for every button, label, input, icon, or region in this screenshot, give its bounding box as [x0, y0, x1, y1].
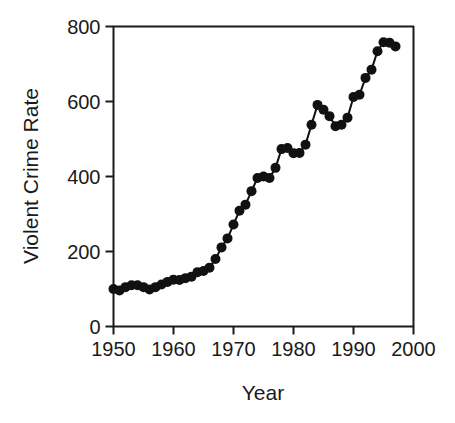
x-axis-title: Year: [242, 381, 284, 404]
y-axis-ticks: 0200400600800: [67, 16, 113, 338]
x-tick-label: 1950: [91, 338, 136, 360]
line-chart: 0200400600800 195019601970198019902000 Y…: [0, 0, 455, 423]
x-tick-label: 2000: [391, 338, 436, 360]
data-point: [271, 163, 281, 173]
data-point: [355, 90, 365, 100]
y-tick-label: 0: [89, 316, 100, 338]
data-point: [241, 200, 251, 210]
data-point: [229, 220, 239, 230]
data-point: [301, 140, 311, 150]
data-point: [211, 254, 221, 264]
chart-figure: 0200400600800 195019601970198019902000 Y…: [0, 0, 455, 423]
data-point: [205, 263, 215, 273]
y-tick-label: 200: [67, 241, 100, 263]
y-tick-label: 800: [67, 16, 100, 38]
data-point: [325, 111, 335, 121]
data-point: [223, 233, 233, 243]
x-tick-label: 1960: [151, 338, 196, 360]
x-tick-label: 1970: [211, 338, 256, 360]
x-tick-label: 1990: [331, 338, 376, 360]
data-point: [217, 242, 227, 252]
data-point: [367, 65, 377, 75]
series-line: [114, 42, 396, 290]
y-tick-label: 600: [67, 91, 100, 113]
data-point: [265, 173, 275, 183]
data-series-group: [109, 37, 401, 295]
data-point: [343, 113, 353, 123]
y-tick-label: 400: [67, 166, 100, 188]
x-tick-label: 1980: [271, 338, 316, 360]
data-point: [373, 46, 383, 56]
y-axis-title: Violent Crime Rate: [19, 88, 42, 264]
data-point: [307, 120, 317, 130]
data-point: [391, 41, 401, 51]
data-point: [295, 148, 305, 158]
data-point: [361, 73, 371, 83]
data-point: [247, 186, 257, 196]
x-axis-ticks: 195019601970198019902000: [91, 327, 436, 360]
